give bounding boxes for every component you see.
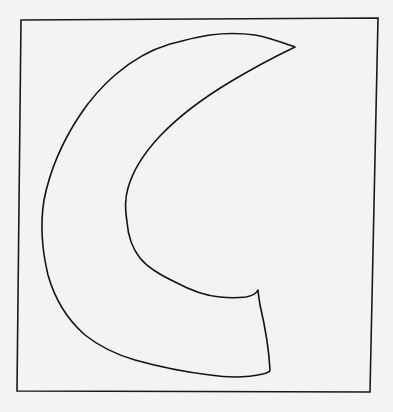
figure-svg — [0, 0, 393, 412]
crescent-shape — [42, 34, 295, 377]
square-frame — [17, 18, 378, 392]
drawing-canvas: crescent — [0, 0, 393, 412]
